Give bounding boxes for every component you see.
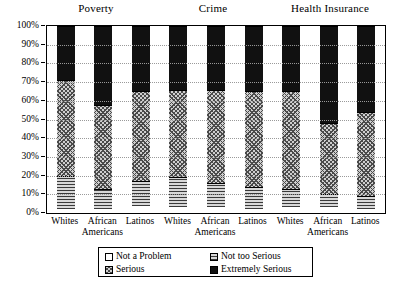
stacked-bar-chart: Poverty Crime Health Insurance 100%90%80… bbox=[0, 0, 404, 282]
gridline bbox=[47, 194, 385, 195]
x-axis-label-line1: Latinos bbox=[351, 216, 380, 226]
bar-segment-serious bbox=[132, 91, 150, 181]
bar-segment-serious bbox=[357, 112, 375, 196]
legend-item-not-too-serious[interactable]: Not too Serious bbox=[210, 251, 308, 262]
y-axis: 100%90%80%70%60%50%40%30%20%10%0% bbox=[0, 25, 44, 213]
bar-segment-not-a-problem bbox=[282, 207, 300, 213]
x-axis-label-line1: Latinos bbox=[126, 216, 155, 226]
bar-segment-serious bbox=[169, 90, 187, 178]
y-axis-tick-mark bbox=[41, 212, 45, 213]
group-title-poverty: Poverty bbox=[46, 2, 146, 14]
bar-segment-not-too-serious bbox=[169, 177, 187, 207]
legend-item-extremely-serious[interactable]: Extremely Serious bbox=[210, 264, 308, 275]
bar-segment-not-too-serious bbox=[357, 196, 375, 209]
x-axis-label-line2: Americans bbox=[189, 227, 241, 238]
gridline bbox=[47, 120, 385, 121]
bar-segment-not-too-serious bbox=[245, 187, 263, 209]
gridline bbox=[47, 101, 385, 102]
bar-segment-serious bbox=[207, 90, 225, 184]
bar-segment-not-a-problem bbox=[207, 207, 225, 213]
y-axis-tick-label: 70% bbox=[22, 77, 39, 86]
bar-segment-not-a-problem bbox=[132, 206, 150, 213]
legend-item-not-a-problem[interactable]: Not a Problem bbox=[105, 251, 210, 262]
bar-segment-serious bbox=[57, 80, 75, 175]
y-axis-tick-label: 30% bbox=[22, 151, 39, 160]
bar-segment-extremely-serious bbox=[320, 26, 338, 123]
bar-segment-not-a-problem bbox=[320, 207, 338, 213]
x-axis-label-line1: Latinos bbox=[238, 216, 267, 226]
bar-segment-not-a-problem bbox=[245, 209, 263, 213]
x-axis-label-line1: Whites bbox=[277, 216, 304, 226]
y-axis-tick-mark bbox=[41, 119, 45, 120]
legend-grid: Not a ProblemNot too SeriousSeriousExtre… bbox=[105, 250, 308, 276]
y-axis-tick-label: 40% bbox=[22, 133, 39, 142]
plot-area bbox=[46, 25, 386, 214]
gridline bbox=[47, 45, 385, 46]
y-axis-tick-mark bbox=[41, 44, 45, 45]
x-axis-labels: WhitesAfricanAmericansLatinosWhitesAfric… bbox=[0, 216, 404, 246]
legend-label: Not too Serious bbox=[221, 251, 281, 262]
x-axis-label-line1: African bbox=[313, 216, 342, 226]
bar-segment-extremely-serious bbox=[57, 26, 75, 80]
y-axis-tick-label: 100% bbox=[17, 21, 39, 30]
chart-legend: Not a ProblemNot too SeriousSeriousExtre… bbox=[98, 247, 313, 277]
bar-segment-extremely-serious bbox=[94, 26, 112, 105]
gridline bbox=[47, 138, 385, 139]
x-axis-label-line1: African bbox=[88, 216, 117, 226]
gridline bbox=[47, 82, 385, 83]
y-axis-tick-label: 50% bbox=[22, 114, 39, 123]
y-axis-tick-label: 90% bbox=[22, 39, 39, 48]
bar-segment-extremely-serious bbox=[207, 26, 225, 90]
x-axis-label-line1: African bbox=[200, 216, 229, 226]
y-axis-tick-mark bbox=[41, 25, 45, 26]
gridline bbox=[47, 63, 385, 64]
bar-segment-not-too-serious bbox=[57, 176, 75, 210]
legend-swatch-icon bbox=[210, 266, 218, 274]
y-axis-tick-mark bbox=[41, 81, 45, 82]
group-title-health-insurance: Health Insurance bbox=[275, 2, 385, 14]
bar-segment-not-a-problem bbox=[357, 209, 375, 213]
y-axis-tick-mark bbox=[41, 62, 45, 63]
bar-segment-not-too-serious bbox=[282, 189, 300, 208]
y-axis-tick-label: 10% bbox=[22, 189, 39, 198]
bar-segment-not-a-problem bbox=[57, 209, 75, 213]
x-axis-label-line1: Whites bbox=[51, 216, 78, 226]
bar-segment-not-a-problem bbox=[169, 207, 187, 213]
bar-segment-serious bbox=[282, 91, 300, 188]
y-axis-tick-label: 60% bbox=[22, 95, 39, 104]
legend-item-serious[interactable]: Serious bbox=[105, 264, 210, 275]
y-axis-tick-label: 20% bbox=[22, 170, 39, 179]
gridline bbox=[47, 176, 385, 177]
y-axis-tick-mark bbox=[41, 100, 45, 101]
y-axis-tick-mark bbox=[41, 156, 45, 157]
gridline bbox=[47, 157, 385, 158]
x-axis-label-line2: Americans bbox=[76, 227, 128, 238]
x-axis-label-line1: Whites bbox=[164, 216, 191, 226]
y-axis-tick-mark bbox=[41, 175, 45, 176]
bar-segment-not-too-serious bbox=[320, 194, 338, 207]
y-axis-tick-mark bbox=[41, 137, 45, 138]
bar-segment-serious bbox=[320, 123, 338, 194]
legend-label: Not a Problem bbox=[116, 251, 171, 262]
legend-label: Serious bbox=[116, 264, 145, 275]
legend-swatch-icon bbox=[105, 266, 113, 274]
bar-segment-not-too-serious bbox=[94, 189, 112, 210]
legend-label: Extremely Serious bbox=[221, 264, 291, 275]
bar-segment-not-a-problem bbox=[94, 209, 112, 213]
bar-segment-extremely-serious bbox=[357, 26, 375, 112]
group-title-row: Poverty Crime Health Insurance bbox=[0, 2, 404, 18]
bar-segment-extremely-serious bbox=[169, 26, 187, 90]
legend-swatch-icon bbox=[210, 253, 218, 261]
group-title-crime: Crime bbox=[163, 2, 263, 14]
x-axis-label-line2: Americans bbox=[302, 227, 354, 238]
x-axis-label-8: Latinos bbox=[339, 216, 391, 227]
legend-swatch-icon bbox=[105, 253, 113, 261]
y-axis-tick-label: 80% bbox=[22, 58, 39, 67]
y-axis-tick-mark bbox=[41, 193, 45, 194]
